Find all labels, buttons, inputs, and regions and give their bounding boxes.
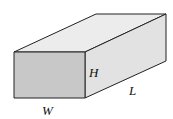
length-label: L (129, 84, 136, 97)
box-front-face (14, 52, 85, 98)
height-label: H (89, 66, 98, 79)
width-label: W (42, 104, 53, 117)
box-diagram: H W L (0, 0, 173, 119)
box-figure (0, 0, 173, 119)
